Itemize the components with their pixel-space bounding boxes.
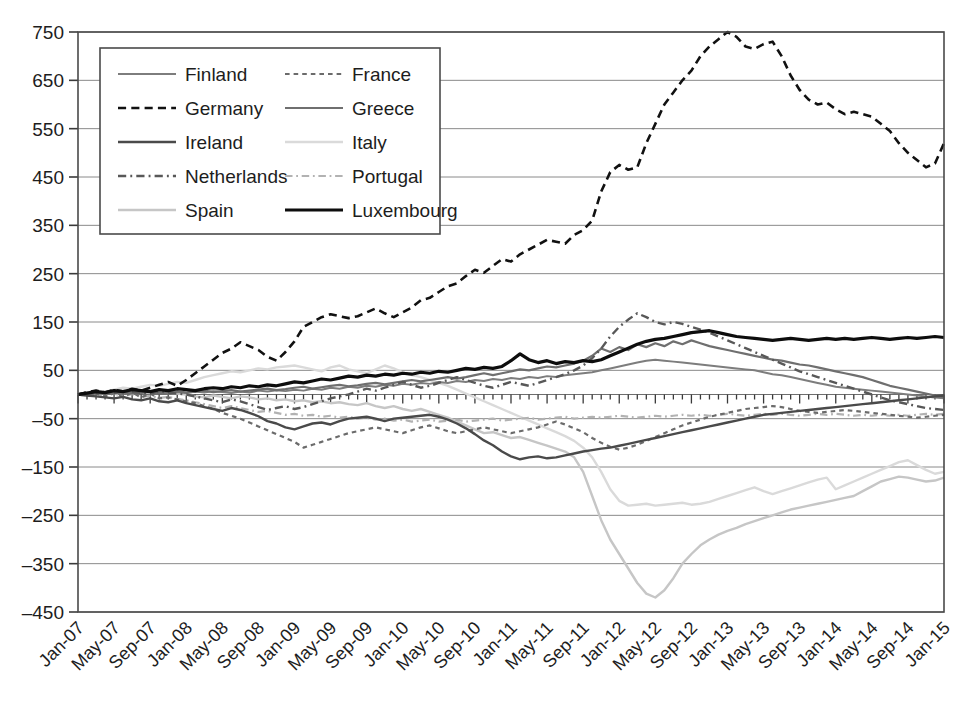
y-axis-ticks xyxy=(69,32,78,612)
y-tick-label: 550 xyxy=(32,119,64,140)
y-tick-label: –150 xyxy=(22,457,64,478)
legend-label-portugal: Portugal xyxy=(352,166,423,187)
chart-legend: FinlandFranceGermanyGreeceIrelandItalyNe… xyxy=(100,48,458,234)
y-tick-label: –450 xyxy=(22,602,64,623)
y-tick-label: 450 xyxy=(32,167,64,188)
legend-label-ireland: Ireland xyxy=(185,132,243,153)
series-line-finland xyxy=(78,360,944,399)
y-tick-label: –250 xyxy=(22,505,64,526)
series-line-spain xyxy=(78,391,944,598)
legend-label-netherlands: Netherlands xyxy=(185,166,287,187)
series-line-ireland xyxy=(78,395,944,460)
y-tick-label: 50 xyxy=(43,360,64,381)
y-tick-label: 250 xyxy=(32,264,64,285)
y-tick-label: 650 xyxy=(32,70,64,91)
legend-label-spain: Spain xyxy=(185,200,234,221)
y-tick-label: 150 xyxy=(32,312,64,333)
legend-label-france: France xyxy=(352,64,411,85)
y-tick-label: 350 xyxy=(32,215,64,236)
legend-label-luxembourg: Luxembourg xyxy=(352,200,458,221)
y-tick-label: 750 xyxy=(32,22,64,43)
legend-label-germany: Germany xyxy=(185,98,264,119)
y-tick-label: –50 xyxy=(32,409,64,430)
series-line-luxembourg xyxy=(78,331,944,395)
x-axis-tick-labels: Jan-07May-07Sep-07Jan-08May-08Sep-08Jan-… xyxy=(35,618,954,675)
y-tick-label: –350 xyxy=(22,554,64,575)
series-line-italy xyxy=(78,366,944,506)
legend-label-italy: Italy xyxy=(352,132,387,153)
y-axis-tick-labels: 75065055045035025015050–50–150–250–350–4… xyxy=(22,22,64,623)
legend-label-finland: Finland xyxy=(185,64,247,85)
legend-label-greece: Greece xyxy=(352,98,414,119)
line-chart: 75065055045035025015050–50–150–250–350–4… xyxy=(0,0,980,707)
chart-container: 75065055045035025015050–50–150–250–350–4… xyxy=(0,0,980,707)
